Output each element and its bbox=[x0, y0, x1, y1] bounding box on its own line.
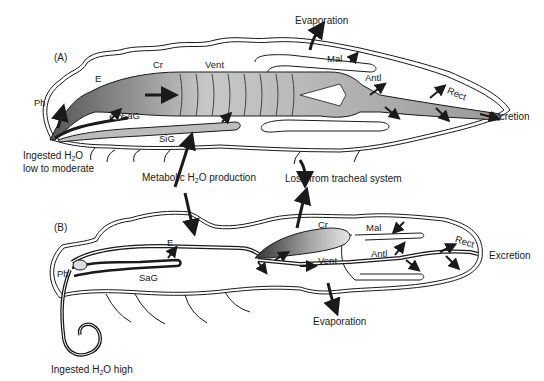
evaporation-label-a: Evaporation bbox=[295, 15, 348, 27]
organ-label-mal-b: Mal bbox=[366, 222, 381, 234]
metabolic-water-label: Metabolic H2O production bbox=[142, 172, 256, 184]
ingested-water-b: Ingested H2O high bbox=[51, 364, 133, 376]
organ-label-sag-b: SaG bbox=[139, 272, 158, 284]
arrow-mal-a bbox=[350, 56, 355, 62]
organ-label-antl-a: Antl bbox=[365, 72, 381, 84]
excretion-label-b: Excretion bbox=[489, 250, 531, 262]
organ-label-ph-b: Ph bbox=[57, 268, 69, 280]
tracheal-loss-label: Loss from tracheal system bbox=[285, 173, 402, 185]
panel-b-body bbox=[50, 211, 482, 324]
arrow-tracheal-b bbox=[297, 195, 305, 228]
panel-b-gut bbox=[62, 228, 478, 355]
organ-label-e-a: E bbox=[95, 73, 101, 85]
organ-label-antl-b: Antl bbox=[371, 248, 387, 260]
arrow-evaporation-a bbox=[310, 28, 320, 50]
panel-a-label: (A) bbox=[54, 52, 67, 64]
organ-label-vent-a: Vent bbox=[205, 59, 224, 71]
arrow-evaporation-b bbox=[328, 283, 335, 308]
organ-label-sag-a: SaG bbox=[121, 110, 140, 122]
organ-label-vent-b: Vent bbox=[318, 255, 337, 267]
organ-label-e-b: E bbox=[167, 237, 173, 249]
organ-label-sig-a: SiG bbox=[159, 133, 175, 145]
ingested-water-a-line1: Ingested H2O bbox=[23, 150, 83, 162]
organ-label-ph-a: Ph bbox=[34, 97, 46, 109]
diagram-drawing bbox=[0, 0, 544, 381]
organ-label-cr-b: Cr bbox=[318, 219, 328, 231]
panel-b-label: (B) bbox=[54, 222, 67, 234]
insect-water-balance-diagram: (A) Ph E Cr Vent Mal Antl Rect SaG SiG E… bbox=[0, 0, 544, 381]
organ-label-mal-a: Mal bbox=[327, 53, 342, 65]
organ-label-cr-a: Cr bbox=[153, 59, 163, 71]
arrow-metabolic-b bbox=[185, 193, 193, 228]
evaporation-label-b: Evaporation bbox=[313, 316, 366, 328]
ingested-water-a-line2: low to moderate bbox=[23, 163, 94, 175]
excretion-label-a: Excretion bbox=[488, 111, 530, 123]
arrow-mal-b bbox=[396, 222, 404, 230]
